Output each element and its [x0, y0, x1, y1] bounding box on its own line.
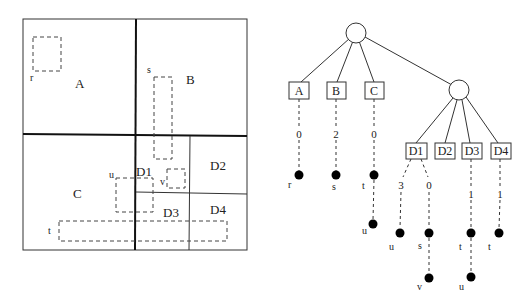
diagram-canvas: A B C D1 D2 D3 D4 r s u v t: [0, 0, 525, 297]
object-label-u: u: [109, 169, 114, 180]
region-labels: A B C D1 D2 D3 D4: [73, 72, 226, 220]
leaf-point-v: [425, 274, 434, 283]
edge-labels: 0 2 0 3 0 1 1: [296, 128, 503, 200]
dashed-edge: [421, 159, 428, 177]
edge-root-c: [359, 41, 374, 82]
leaf-label-v: v: [417, 281, 422, 292]
node-label-d1: D1: [409, 144, 424, 158]
edge-label-d4: 1: [497, 188, 503, 200]
edge-inner-d1: [416, 98, 453, 143]
node-label-c: C: [370, 84, 378, 98]
inner-node: [449, 80, 469, 100]
object-label-t: t: [48, 225, 51, 236]
edge-root-a: [301, 38, 350, 82]
leaf-label-u: u: [389, 241, 394, 252]
object-labels: r s u v t: [30, 64, 165, 236]
node-label-a: A: [295, 84, 304, 98]
leaf-point-s: [425, 229, 434, 238]
edge-inner-d3: [462, 100, 470, 143]
leaf-point-u: [396, 229, 405, 238]
node-label-d4: D4: [494, 144, 509, 158]
edge-root-inner: [365, 37, 452, 85]
edge-label-c: 0: [371, 128, 377, 140]
leaf-point-t: [370, 171, 379, 180]
leaf-label-t: t: [488, 241, 491, 252]
region-label-c: C: [73, 186, 82, 201]
leaf-label-s: s: [332, 181, 336, 192]
leaf-label-u: u: [459, 281, 464, 292]
leaf-label-r: r: [288, 179, 292, 190]
node-label-d3: D3: [465, 144, 480, 158]
object-rect-v: [167, 169, 185, 188]
edge-label-d1-right: 0: [426, 179, 432, 191]
leaf-point-t: [495, 229, 504, 238]
node-label-d2: D2: [438, 144, 453, 158]
edge-inner-d4: [466, 97, 498, 143]
leaf-point-u: [369, 220, 378, 229]
region-label-d4: D4: [210, 202, 226, 217]
edge-label-d1-left: 3: [398, 179, 404, 191]
edge-label-d3: 1: [468, 188, 474, 200]
object-label-s: s: [147, 64, 151, 75]
main-horizontal-divider: [23, 134, 247, 136]
leaf-point-t: [467, 229, 476, 238]
leaf-point-r: [295, 171, 304, 180]
region-label-b: B: [186, 72, 195, 87]
region-label-d1: D1: [136, 164, 152, 179]
leaf-point-s: [332, 171, 341, 180]
dashed-edge: [373, 180, 374, 220]
edge-inner-d2: [445, 100, 457, 143]
edge-label-b: 2: [333, 128, 339, 140]
dashed-edge: [499, 200, 500, 228]
object-rect-r: [33, 37, 61, 71]
object-label-v: v: [160, 176, 165, 187]
dashed-edge: [403, 159, 411, 177]
region-label-d3: D3: [163, 205, 179, 220]
node-label-b: B: [332, 84, 340, 98]
dashed-edge: [400, 192, 401, 228]
leaf-label-t: t: [362, 180, 365, 191]
leaf-labels: r s t u u s v t u t: [288, 179, 491, 292]
edge-label-a: 0: [296, 128, 302, 140]
object-rect-t: [59, 221, 227, 241]
leaf-label-u: u: [362, 225, 367, 236]
object-rect-s: [154, 77, 172, 159]
leaf-label-t: t: [459, 241, 462, 252]
leaf-label-s: s: [418, 240, 422, 251]
region-label-d2: D2: [210, 158, 226, 173]
root-node: [346, 23, 366, 43]
object-label-r: r: [30, 72, 34, 83]
region-label-a: A: [75, 76, 85, 91]
leaf-point-u: [467, 273, 476, 282]
